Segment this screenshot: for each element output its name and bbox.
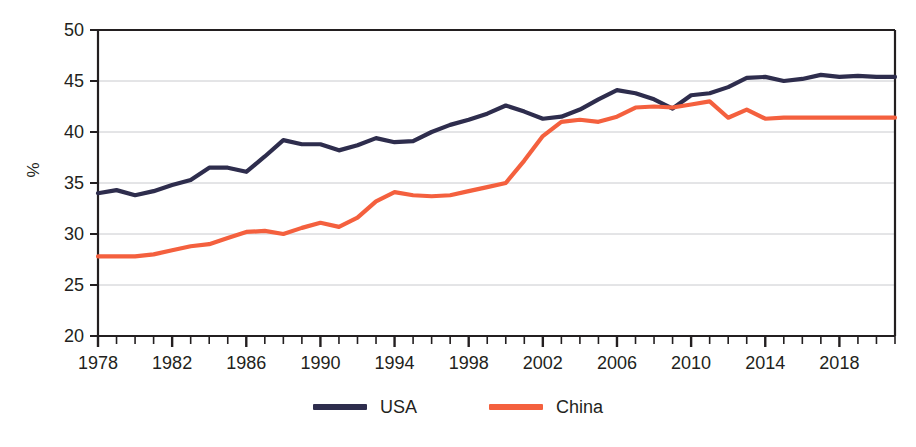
x-tick-label: 1986	[211, 354, 281, 372]
x-tick-label: 1994	[360, 354, 430, 372]
x-tick-label: 2014	[730, 354, 800, 372]
y-tick-label: 40	[40, 123, 84, 141]
chart-legend: USA China	[0, 398, 916, 416]
y-tick-label: 50	[40, 21, 84, 39]
y-tick-label: 20	[40, 327, 84, 345]
series-line-china	[98, 101, 895, 256]
legend-label-china: China	[556, 398, 603, 416]
legend-swatch-china	[489, 404, 543, 410]
legend-label-usa: USA	[380, 398, 417, 416]
x-tick-label: 1990	[285, 354, 355, 372]
y-tick-label: 30	[40, 225, 84, 243]
x-tick-label: 1998	[434, 354, 504, 372]
plot-area	[0, 0, 916, 447]
series-line-usa	[98, 75, 895, 195]
x-tick-label: 1982	[137, 354, 207, 372]
x-tick-label: 2002	[508, 354, 578, 372]
legend-item-usa: USA	[313, 398, 417, 416]
x-tick-label: 2018	[804, 354, 874, 372]
legend-item-china: China	[489, 398, 603, 416]
legend-swatch-usa	[313, 404, 367, 410]
y-tick-label: 45	[40, 72, 84, 90]
y-tick-label: 35	[40, 174, 84, 192]
y-tick-label: 25	[40, 276, 84, 294]
x-tick-label: 2010	[656, 354, 726, 372]
x-tick-label: 1978	[63, 354, 133, 372]
line-chart: % 20253035404550 19781982198619901994199…	[0, 0, 916, 447]
x-tick-label: 2006	[582, 354, 652, 372]
